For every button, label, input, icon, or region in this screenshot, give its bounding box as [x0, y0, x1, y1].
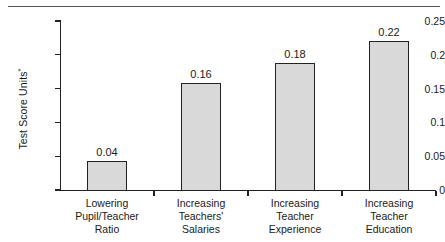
y-axis-title: Test Score Units* [17, 24, 29, 194]
bar-value-label: 0.22 [378, 26, 399, 38]
category-label-line: Increasing [177, 197, 225, 210]
category-label: IncreasingTeacherExperience [269, 197, 322, 237]
bar [87, 161, 127, 191]
y-tick-mark [55, 122, 60, 123]
bar [275, 63, 315, 191]
y-axis-line [60, 20, 61, 191]
y-tick-mark [55, 88, 60, 89]
category-label-line: Education [365, 223, 413, 236]
bar-value-label: 0.16 [190, 68, 211, 80]
category-label-line: Teachers' [177, 210, 225, 223]
bar-value-label: 0.18 [284, 48, 305, 60]
x-tick-mark [341, 191, 342, 196]
category-label-line: Ratio [75, 223, 139, 236]
y-axis-title-superscript: * [16, 68, 25, 71]
category-label: IncreasingTeacherEducation [365, 197, 413, 237]
bar [181, 83, 221, 191]
bar [369, 41, 409, 191]
category-label-line: Salaries [177, 223, 225, 236]
y-tick-label: 0.25 [397, 15, 445, 27]
y-tick-mark [55, 20, 60, 21]
bar-chart-figure: Test Score Units* 00.050.10.150.20.25 0.… [0, 0, 445, 242]
category-label: LoweringPupil/TeacherRatio [75, 197, 139, 237]
category-label-line: Teacher [269, 210, 322, 223]
category-label-line: Increasing [269, 197, 322, 210]
category-label-line: Teacher [365, 210, 413, 223]
category-label-line: Increasing [365, 197, 413, 210]
category-label-line: Lowering [75, 197, 139, 210]
bar-value-label: 0.04 [96, 146, 117, 158]
x-tick-mark [435, 191, 436, 196]
category-label: IncreasingTeachers'Salaries [177, 197, 225, 237]
y-tick-mark [55, 156, 60, 157]
top-horizontal-rule [8, 6, 440, 7]
y-axis-title-text: Test Score Units [17, 72, 29, 150]
x-tick-mark [153, 191, 154, 196]
y-tick-mark [55, 189, 60, 190]
category-label-line: Pupil/Teacher [75, 210, 139, 223]
category-label-line: Experience [269, 223, 322, 236]
y-tick-mark [55, 54, 60, 55]
x-tick-mark [247, 191, 248, 196]
